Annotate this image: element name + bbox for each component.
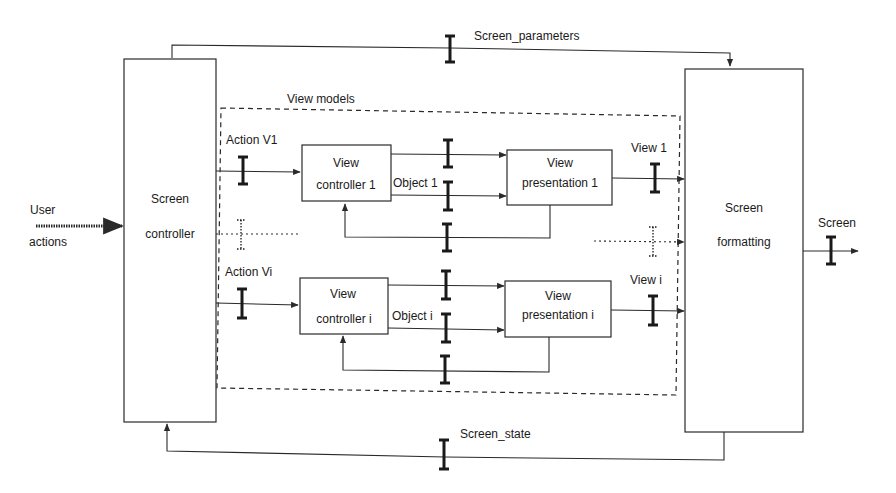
replicated-input-connector bbox=[216, 220, 298, 249]
screen-formatting-label-2: formatting bbox=[717, 235, 770, 249]
replicated-output-connector bbox=[594, 227, 684, 256]
view-presentation-i-label-1: View bbox=[545, 289, 571, 303]
screen-state-label: Screen_state bbox=[460, 427, 531, 441]
ibeam-connector-icon bbox=[439, 440, 449, 469]
screen-output: Screen bbox=[803, 216, 858, 264]
actions-label: actions bbox=[29, 235, 67, 249]
object-i-label: Object i bbox=[392, 309, 433, 323]
screen-parameters-bus: Screen_parameters bbox=[172, 29, 730, 66]
view-row-1: Action V1 View controller 1 Object 1 Vie… bbox=[216, 133, 684, 251]
screen-state-bus: Screen_state bbox=[167, 424, 724, 469]
view-i-label: View i bbox=[630, 273, 662, 287]
view-models-label: View models bbox=[287, 92, 355, 106]
screen-output-label: Screen bbox=[818, 216, 856, 230]
user-label: User bbox=[30, 203, 55, 217]
view-presentation-i-box: View presentation i bbox=[505, 281, 611, 337]
view-presentation-i-label-2: presentation i bbox=[522, 308, 594, 322]
user-actions-input: User actions bbox=[29, 203, 122, 249]
ibeam-connector-icon bbox=[443, 140, 453, 167]
action-vi-label: Action Vi bbox=[225, 265, 272, 279]
mvc-screen-diagram: Screen_parameters Screen controller Scre… bbox=[0, 0, 896, 493]
view-presentation-1-label-2: presentation 1 bbox=[522, 176, 598, 190]
screen-controller-label-2: controller bbox=[145, 227, 194, 241]
screen-parameters-label: Screen_parameters bbox=[474, 29, 579, 43]
ibeam-connector-icon bbox=[441, 314, 451, 342]
view-controller-i-box: View controller i bbox=[300, 278, 388, 334]
view-presentation-1-label-1: View bbox=[547, 156, 573, 170]
view-controller-1-box: View controller 1 bbox=[302, 145, 391, 201]
object-1-label: Object 1 bbox=[393, 176, 438, 190]
view-1-label: View 1 bbox=[631, 141, 667, 155]
view-controller-i-label-2: controller i bbox=[316, 312, 371, 326]
view-controller-i-label-1: View bbox=[330, 287, 356, 301]
screen-controller-label-1: Screen bbox=[151, 192, 189, 206]
action-v1-label: Action V1 bbox=[226, 133, 278, 147]
view-controller-1-label-2: controller 1 bbox=[316, 178, 376, 192]
view-presentation-1-box: View presentation 1 bbox=[507, 150, 612, 205]
screen-controller-box: Screen controller bbox=[124, 59, 216, 422]
ibeam-connector-icon bbox=[440, 356, 450, 383]
ibeam-connector-icon bbox=[445, 36, 455, 62]
view-controller-1-label-1: View bbox=[333, 156, 359, 170]
view-row-i: Action Vi View controller i Object i Vie… bbox=[216, 265, 684, 383]
screen-formatting-box: Screen formatting bbox=[685, 69, 803, 432]
screen-formatting-label-1: Screen bbox=[725, 201, 763, 215]
ibeam-connector-icon bbox=[238, 157, 248, 184]
